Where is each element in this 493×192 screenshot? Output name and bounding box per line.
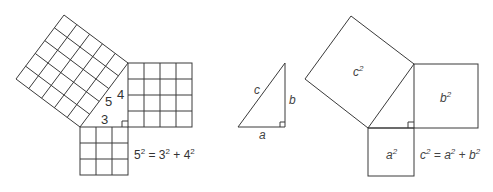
left-figure: 5 4 3 52 = 32 + 42 xyxy=(16,15,195,175)
label-c-squared: c2 xyxy=(353,64,364,79)
right-angle-mark xyxy=(122,121,128,127)
pythagorean-diagram: 5 4 3 52 = 32 + 42 c b a c2 b2 a2 c2 = a… xyxy=(0,0,493,192)
label-leg-3: 3 xyxy=(101,112,108,127)
right-angle-mark xyxy=(280,122,285,127)
label-c: c xyxy=(254,83,260,97)
label-a-squared: a2 xyxy=(386,147,398,162)
label-hyp-5: 5 xyxy=(105,94,112,109)
hypotenuse-square-grid xyxy=(16,15,128,127)
horizontal-leg-square-grid xyxy=(80,127,128,175)
vertical-leg-square-grid xyxy=(128,63,192,127)
equation-numeric: 52 = 32 + 42 xyxy=(134,147,195,162)
right-figure: c2 b2 a2 c2 = a2 + b2 xyxy=(305,16,481,176)
label-b: b xyxy=(289,93,296,107)
equation-symbolic: c2 = a2 + b2 xyxy=(420,147,481,162)
right-angle-mark xyxy=(408,122,414,128)
label-leg-4: 4 xyxy=(117,87,124,102)
middle-triangle: c b a xyxy=(238,63,296,142)
label-a: a xyxy=(259,128,266,142)
label-b-squared: b2 xyxy=(440,90,452,105)
